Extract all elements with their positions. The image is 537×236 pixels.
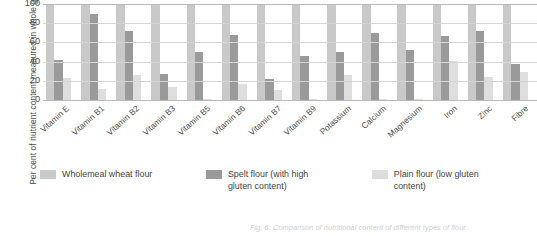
- bar: [203, 99, 211, 100]
- bar: [476, 31, 484, 100]
- bar: [414, 99, 422, 100]
- bar: [195, 52, 203, 100]
- bar-group: [114, 4, 149, 100]
- bar-group: [290, 4, 325, 100]
- x-category-label: Fibre: [510, 104, 530, 123]
- x-category-label: Vitamin B9: [282, 104, 318, 138]
- bar: [433, 4, 441, 100]
- bar: [379, 99, 387, 100]
- bar: [222, 4, 230, 100]
- bar-group: [325, 4, 360, 100]
- bar: [274, 90, 282, 100]
- x-category-label: Vitamin B3: [141, 104, 177, 138]
- bar-groups: [43, 4, 537, 100]
- bar: [230, 35, 238, 100]
- bar-group: [360, 4, 395, 100]
- legend-label: Plain flour (low gluten content): [394, 168, 500, 192]
- x-category-label: Vitamin B7: [247, 104, 283, 138]
- bar: [503, 4, 511, 100]
- figure-caption: Fig. 6: Comparison of nutritional conten…: [250, 223, 466, 232]
- legend-swatch: [40, 170, 56, 179]
- x-category-label: Iron: [442, 104, 459, 120]
- plot-area: [43, 4, 537, 101]
- bar: [125, 31, 133, 100]
- bar-group: [185, 4, 220, 100]
- legend-label: Wholemeal wheat flour: [62, 168, 152, 180]
- bar-group: [79, 4, 114, 100]
- bar-group: [466, 4, 501, 100]
- bar: [133, 75, 141, 100]
- bar: [292, 4, 300, 100]
- bar: [81, 4, 89, 100]
- chart-legend: Wholemeal wheat flourSpelt flour (with h…: [40, 168, 510, 192]
- bar: [309, 99, 317, 100]
- x-category-label: Vitamin B2: [106, 104, 142, 138]
- bar: [151, 4, 159, 100]
- y-tick-label: 100: [18, 0, 40, 9]
- bar: [168, 87, 176, 100]
- legend-item: Spelt flour (with high gluten content): [206, 168, 372, 192]
- legend-swatch: [372, 170, 388, 179]
- bar-group: [501, 4, 536, 100]
- gridline: [43, 23, 537, 24]
- y-tick-label: 0: [18, 95, 40, 104]
- gridline: [43, 42, 537, 43]
- x-category-label: Potassium: [318, 104, 353, 137]
- legend-item: Wholemeal wheat flour: [40, 168, 206, 192]
- bar: [160, 74, 168, 100]
- bar: [46, 4, 54, 100]
- gridline: [43, 62, 537, 63]
- y-tick-label: 20: [18, 76, 40, 85]
- gridline: [43, 4, 537, 5]
- bar: [98, 89, 106, 100]
- x-category-label: Magnesium: [386, 104, 424, 139]
- bar: [116, 4, 124, 100]
- x-category-label: Vitamin B5: [176, 104, 212, 138]
- bar-group: [44, 4, 79, 100]
- bar: [406, 50, 414, 100]
- bar-group: [395, 4, 430, 100]
- bar: [336, 52, 344, 100]
- plot-wrapper: 100806040200: [18, 4, 537, 104]
- figure-container: Per cent of nutrient content measured in…: [0, 0, 537, 236]
- y-axis-tick-labels: 100806040200: [18, 4, 40, 100]
- bar: [265, 79, 273, 100]
- legend-swatch: [206, 170, 222, 179]
- bar-group: [255, 4, 290, 100]
- x-category-label: Vitamin E: [39, 104, 71, 134]
- x-category-label: Calcium: [360, 104, 388, 131]
- bar: [511, 64, 519, 100]
- legend-item: Plain flour (low gluten content): [372, 168, 510, 192]
- x-axis-category-labels: Vitamin EVitamin B1Vitamin B2Vitamin B3V…: [43, 104, 537, 160]
- bar: [344, 75, 352, 100]
- x-category-label: Vitamin B1: [70, 104, 106, 138]
- x-category-label: Zinc: [477, 104, 495, 121]
- bar: [90, 14, 98, 100]
- y-tick-label: 80: [18, 19, 40, 28]
- bar: [257, 4, 265, 100]
- bar: [238, 84, 246, 100]
- bar: [327, 4, 335, 100]
- bar: [187, 4, 195, 100]
- x-category-label: Vitamin B6: [212, 104, 248, 138]
- gridline: [43, 81, 537, 82]
- bar: [397, 4, 405, 100]
- y-tick-label: 60: [18, 38, 40, 47]
- bar: [468, 4, 476, 100]
- legend-label: Spelt flour (with high gluten content): [228, 168, 334, 192]
- bar: [520, 72, 528, 100]
- bar-group: [431, 4, 466, 100]
- bar-group: [149, 4, 184, 100]
- bar-group: [220, 4, 255, 100]
- y-tick-label: 40: [18, 57, 40, 66]
- bar: [441, 36, 449, 100]
- bar: [362, 4, 370, 100]
